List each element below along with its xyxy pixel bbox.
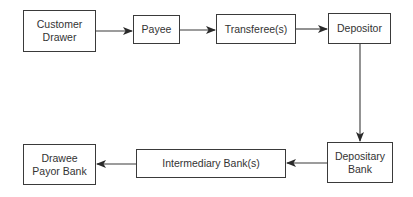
node-payee: Payee — [133, 15, 180, 44]
node-label: Intermediary Bank(s) — [162, 157, 259, 170]
node-label: Depositor — [337, 22, 382, 35]
node-transferees: Transferee(s) — [216, 14, 296, 44]
node-label: Drawee Payor Bank — [32, 152, 86, 178]
node-intermediary-banks: Intermediary Bank(s) — [136, 149, 286, 178]
node-label: Customer Drawer — [37, 18, 83, 44]
node-depositary-bank: Depositary Bank — [327, 142, 393, 183]
node-label: Transferee(s) — [225, 23, 288, 36]
node-label: Payee — [142, 23, 172, 36]
node-drawee-payor-bank: Drawee Payor Bank — [23, 144, 96, 185]
node-label: Depositary Bank — [335, 150, 385, 176]
node-customer-drawer: Customer Drawer — [23, 10, 96, 52]
node-depositor: Depositor — [328, 13, 391, 44]
